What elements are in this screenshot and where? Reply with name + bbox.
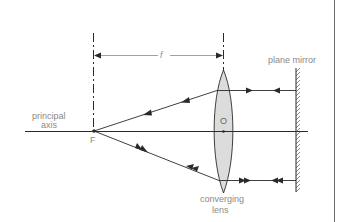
principal-axis-label-line2: axis	[41, 120, 57, 131]
arrowhead-icon	[140, 145, 148, 153]
focal-point-dot	[92, 129, 96, 133]
frame-border-right	[334, 0, 335, 222]
focal-point-label: F	[90, 135, 96, 146]
lens-label-line1: converging	[200, 194, 244, 205]
arrowhead-icon	[143, 110, 152, 116]
lens-label-line2: lens	[212, 205, 229, 216]
arrowhead-icon	[273, 88, 280, 94]
focal-length-dimension	[94, 53, 223, 59]
plane-mirror-label: plane mirror	[268, 55, 316, 66]
optical-centre-dot	[222, 130, 225, 133]
arrowhead-icon	[246, 88, 253, 94]
arrowhead-icon	[244, 178, 251, 184]
upper-ray	[94, 88, 296, 132]
arrowhead-left-icon	[94, 53, 101, 59]
plane-mirror	[296, 68, 300, 192]
arrowhead-right-icon	[216, 53, 223, 59]
lower-ray	[94, 131, 296, 184]
optical-centre-label: O	[220, 116, 227, 127]
arrowhead-icon	[181, 97, 190, 103]
focal-length-label: f	[160, 50, 163, 61]
